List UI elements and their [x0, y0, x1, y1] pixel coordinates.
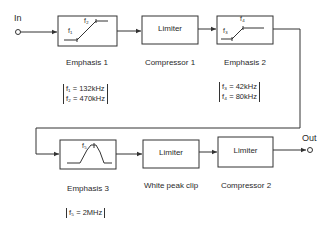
f5-marker: f₅	[82, 142, 87, 149]
f4-marker: f₄	[240, 15, 245, 22]
f2-marker: f₂	[84, 17, 89, 24]
param-f3: f₃ = 42kHz	[222, 82, 257, 92]
param-f5: f₅ = 2MHz	[69, 208, 102, 218]
emphasis-3-peak-curve-icon	[67, 145, 112, 163]
signal-flow-diagram	[0, 0, 330, 229]
white-peak-clip-inner-label: Limiter	[143, 148, 199, 157]
param-f4: f₄ = 80kHz	[222, 92, 257, 102]
emphasis-3-box	[60, 140, 116, 169]
input-label: In	[14, 13, 22, 23]
compressor-2-inner-label: Limiter	[218, 146, 273, 155]
compressor-1-caption: Compressor 1	[135, 58, 205, 67]
emphasis-3-params: f₅ = 2MHz	[66, 208, 105, 218]
emphasis-2-caption: Emphasis 2	[210, 58, 280, 67]
param-f2: f₂ = 470kHz	[66, 94, 105, 104]
output-terminal-icon	[308, 148, 313, 153]
emphasis-3-caption: Emphasis 3	[53, 184, 123, 193]
output-label: Out	[302, 133, 317, 143]
f1-marker: f₁	[68, 27, 72, 34]
emphasis-1-caption: Emphasis 1	[52, 58, 122, 67]
compressor-1-inner-label: Limiter	[142, 24, 198, 33]
emphasis-2-params: f₃ = 42kHz f₄ = 80kHz	[219, 82, 260, 102]
f3-marker: f₃	[223, 27, 228, 34]
white-peak-clip-caption: White peak clip	[136, 181, 206, 190]
compressor-2-caption: Compressor 2	[211, 181, 281, 190]
input-terminal-icon	[16, 30, 21, 35]
param-f1: f₁ = 132kHz	[66, 84, 105, 94]
emphasis-1-params: f₁ = 132kHz f₂ = 470kHz	[63, 84, 108, 104]
